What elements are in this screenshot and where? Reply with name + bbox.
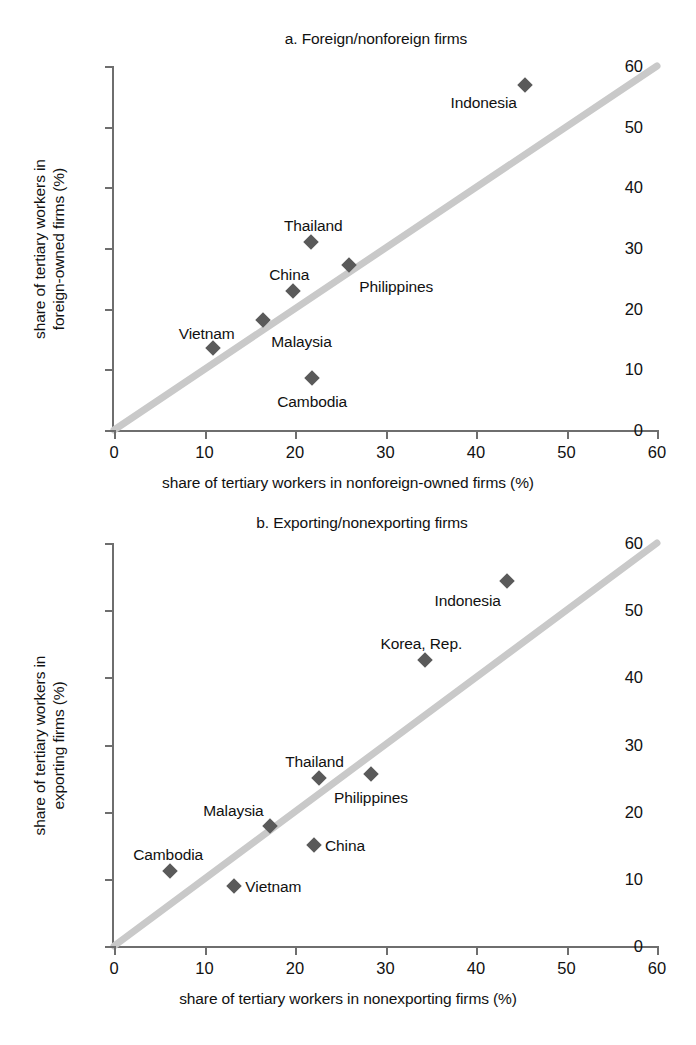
data-point-label-china: China (325, 837, 365, 855)
data-point-cambodia[interactable] (304, 370, 320, 386)
data-point-thailand[interactable] (311, 770, 327, 786)
data-point-label-cambodia: Cambodia (133, 846, 203, 864)
panel-a-y-tick (105, 66, 114, 68)
panel-b-y-tick (105, 543, 114, 545)
panel-b-x-tick (114, 946, 116, 955)
data-point-indonesia[interactable] (499, 574, 515, 590)
panel-a-y-tick-label: 50 (625, 117, 643, 136)
data-point-label-cambodia: Cambodia (277, 393, 347, 411)
panel-b-y-tick-label: 20 (625, 802, 643, 821)
panel-a-x-tick-label: 30 (376, 443, 394, 462)
panel-a-x-tick-label: 0 (109, 443, 118, 462)
panel-b-title: b. Exporting/nonexporting firms (14, 514, 696, 532)
panel-a-y-tick-label: 0 (634, 421, 643, 440)
data-point-label-korea-rep: Korea, Rep. (381, 635, 463, 653)
panel-a-x-tick (657, 430, 659, 439)
panel-a-x-tick-label: 60 (648, 443, 666, 462)
panel-b-y-tick-label: 0 (634, 937, 643, 956)
panel-a-y-tick (105, 187, 114, 189)
data-point-label-indonesia: Indonesia (434, 592, 500, 610)
panel-b-x-tick (657, 946, 659, 955)
data-point-philippines[interactable] (363, 766, 379, 782)
panel-a-title: a. Foreign/nonforeign firms (28, 30, 696, 48)
panel-a-y-tick (105, 369, 114, 371)
data-point-label-malaysia: Malaysia (271, 333, 331, 351)
panel-a-x-tick (205, 430, 207, 439)
panel-a-y-axis-title-line2: foreign-owned firms (%) (49, 66, 68, 432)
panel-b-x-tick (205, 946, 207, 955)
data-point-malaysia[interactable] (256, 312, 272, 328)
panel-b-x-tick (567, 946, 569, 955)
figure-scatter-pair: a. Foreign/nonforeign firms share of ter… (0, 0, 696, 1045)
panel-a-y-tick (105, 309, 114, 311)
panel-b-x-tick-label: 20 (286, 959, 304, 978)
panel-b-y-tick (105, 812, 114, 814)
data-point-label-thailand: Thailand (285, 753, 344, 771)
data-point-label-china: China (269, 266, 309, 284)
panel-b-y-tick (105, 946, 114, 948)
data-point-vietnam[interactable] (227, 878, 243, 894)
panel-b-x-axis-title: share of tertiary workers in nonexportin… (0, 990, 696, 1008)
panel-b-y-tick (105, 610, 114, 612)
panel-a-y-tick (105, 430, 114, 432)
panel-b-y-axis-title-line2: exporting firms (%) (49, 543, 68, 948)
panel-b-y-tick (105, 745, 114, 747)
panel-a-x-tick (476, 430, 478, 439)
data-point-thailand[interactable] (304, 234, 320, 250)
panel-a-y-tick-label: 60 (625, 57, 643, 76)
panel-a-x-tick (386, 430, 388, 439)
panel-a-x-tick-label: 20 (286, 443, 304, 462)
panel-b-x-tick-label: 60 (648, 959, 666, 978)
panel-b-x-tick-label: 0 (109, 959, 118, 978)
data-point-china[interactable] (306, 837, 322, 853)
panel-b-y-tick-label: 60 (625, 534, 643, 553)
panel-a-x-tick-label: 40 (467, 443, 485, 462)
data-point-label-philippines: Philippines (359, 278, 433, 296)
panel-a-x-tick (114, 430, 116, 439)
panel-b-x-tick-label: 50 (557, 959, 575, 978)
data-point-label-indonesia: Indonesia (451, 94, 517, 112)
panel-a-x-tick (295, 430, 297, 439)
data-point-label-malaysia: Malaysia (203, 802, 263, 820)
panel-b-x-tick-label: 30 (376, 959, 394, 978)
panel-a-x-tick-label: 50 (557, 443, 575, 462)
panel-a-y-axis-title-line1: share of tertiary workers in (30, 66, 49, 432)
panel-a-y-tick-label: 40 (625, 178, 643, 197)
data-point-label-vietnam: Vietnam (179, 325, 235, 343)
panel-a-foreign-nonforeign: a. Foreign/nonforeign firms share of ter… (0, 0, 696, 523)
panel-a-y-tick-label: 30 (625, 239, 643, 258)
panel-b-x-tick-label: 40 (467, 959, 485, 978)
data-point-malaysia[interactable] (262, 819, 278, 835)
panel-b-y-tick-label: 10 (625, 869, 643, 888)
panel-b-plot-area: 01020304050600102030405060IndonesiaKorea… (112, 543, 657, 948)
panel-b-y-tick-label: 40 (625, 668, 643, 687)
data-point-indonesia[interactable] (517, 78, 533, 94)
panel-a-y-tick-label: 20 (625, 299, 643, 318)
panel-a-y-axis-title: share of tertiary workers in foreign-own… (30, 66, 69, 432)
panel-b-y-tick (105, 879, 114, 881)
panel-a-45-degree-line (114, 66, 657, 430)
panel-b-y-axis-title: share of tertiary workers in exporting f… (30, 543, 69, 948)
panel-b-x-tick (386, 946, 388, 955)
panel-a-x-tick-label: 10 (195, 443, 213, 462)
panel-b-y-tick (105, 677, 114, 679)
panel-b-x-tick (476, 946, 478, 955)
panel-b-y-tick-label: 50 (625, 601, 643, 620)
panel-a-x-tick (567, 430, 569, 439)
data-point-label-thailand: Thailand (284, 217, 343, 235)
data-point-label-philippines: Philippines (334, 789, 408, 807)
data-point-label-vietnam: Vietnam (245, 878, 301, 896)
panel-b-y-tick-label: 30 (625, 735, 643, 754)
panel-b-exporting-nonexporting: b. Exporting/nonexporting firms share of… (0, 500, 696, 1045)
panel-b-x-tick (295, 946, 297, 955)
panel-a-x-axis-title: share of tertiary workers in nonforeign-… (0, 474, 696, 492)
data-point-korea-rep[interactable] (418, 652, 434, 668)
data-point-philippines[interactable] (342, 257, 358, 273)
panel-a-y-tick (105, 127, 114, 129)
data-point-cambodia[interactable] (162, 863, 178, 879)
panel-a-y-tick-label: 10 (625, 360, 643, 379)
panel-b-45-degree-line (114, 543, 657, 946)
panel-a-plot-area: 01020304050600102030405060IndonesiaThail… (112, 66, 657, 432)
data-point-china[interactable] (285, 283, 301, 299)
panel-a-y-tick (105, 248, 114, 250)
